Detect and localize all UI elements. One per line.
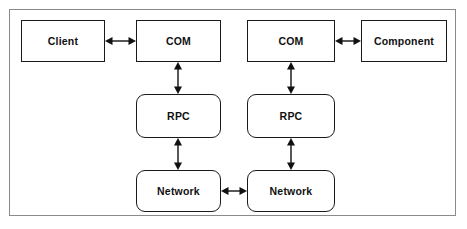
node-com-right-label: COM bbox=[278, 36, 303, 47]
node-network-left-label: Network bbox=[157, 186, 200, 197]
node-network-right[interactable]: Network bbox=[247, 170, 335, 212]
node-com-right[interactable]: COM bbox=[247, 20, 335, 62]
node-component-label: Component bbox=[374, 36, 434, 47]
node-com-left[interactable]: COM bbox=[136, 20, 221, 62]
connector-com-right-component bbox=[335, 33, 361, 49]
connector-com-right-rpc-right bbox=[283, 62, 299, 94]
node-client-label: Client bbox=[48, 36, 78, 47]
node-component[interactable]: Component bbox=[361, 20, 447, 62]
node-rpc-right[interactable]: RPC bbox=[247, 94, 335, 138]
node-rpc-left-label: RPC bbox=[167, 111, 190, 122]
connector-rpc-left-network-left bbox=[170, 138, 186, 170]
connector-rpc-right-network-right bbox=[283, 138, 299, 170]
node-network-left[interactable]: Network bbox=[136, 170, 221, 212]
node-rpc-left[interactable]: RPC bbox=[136, 94, 221, 138]
connector-com-left-rpc-left bbox=[170, 62, 186, 94]
node-com-left-label: COM bbox=[166, 36, 191, 47]
node-network-right-label: Network bbox=[270, 186, 313, 197]
connector-network-left-network-right bbox=[221, 183, 247, 199]
diagram-canvas: Client COM COM Component RPC RPC Network… bbox=[0, 0, 467, 229]
node-client[interactable]: Client bbox=[21, 20, 105, 62]
node-rpc-right-label: RPC bbox=[280, 111, 303, 122]
connector-client-com-left bbox=[105, 33, 136, 49]
